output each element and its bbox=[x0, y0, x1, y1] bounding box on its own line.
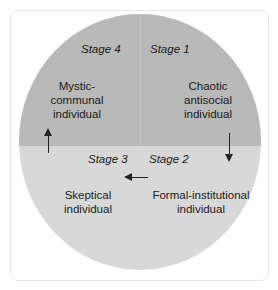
quadrant-divider bbox=[140, 14, 141, 146]
line: antisocial bbox=[170, 93, 246, 107]
line: Mystic- bbox=[40, 79, 114, 93]
stage-2-label: Stage 2 bbox=[149, 153, 189, 165]
line: individual bbox=[170, 107, 246, 121]
stage-3-label: Stage 3 bbox=[88, 153, 128, 165]
stage-1-description: Chaotic antisocial individual bbox=[170, 79, 246, 121]
stage-4-description: Mystic- communal individual bbox=[40, 79, 114, 121]
stage-3-description: Skeptical individual bbox=[58, 188, 118, 216]
stages-circle bbox=[19, 14, 261, 270]
line: Skeptical bbox=[58, 188, 118, 202]
line: individual bbox=[40, 107, 114, 121]
stage-1-label: Stage 1 bbox=[150, 43, 190, 55]
line: individual bbox=[146, 202, 256, 216]
line: individual bbox=[58, 202, 118, 216]
line: Chaotic bbox=[170, 79, 246, 93]
stage-2-description: Formal-institutional individual bbox=[146, 188, 256, 216]
line: Formal-institutional bbox=[146, 188, 256, 202]
stage-4-label: Stage 4 bbox=[81, 43, 121, 55]
line: communal bbox=[40, 93, 114, 107]
